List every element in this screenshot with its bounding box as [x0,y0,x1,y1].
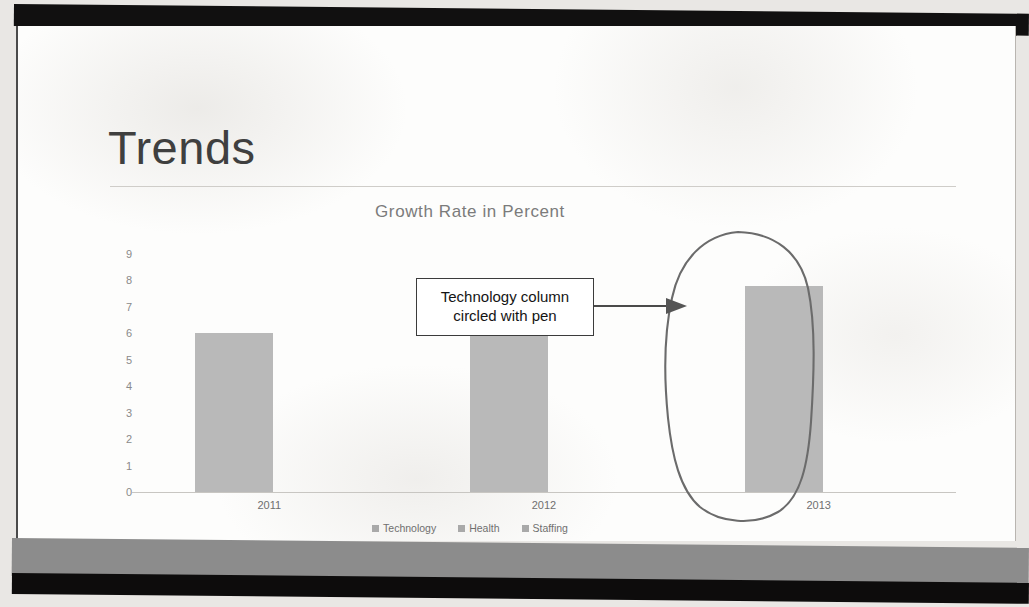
chart-title: Growth Rate in Percent [110,202,830,222]
page-title: Trends [108,124,256,171]
bar-chart: Growth Rate in Percent 9876543210 201120… [110,202,960,522]
y-tick-label: 8 [110,275,132,286]
arrow-right-icon [592,294,692,318]
title-divider [110,186,956,187]
annotation-callout-box: Technology column circled with pen [416,278,594,336]
bar-2011 [195,333,273,492]
callout-line-1: Technology column [441,288,569,307]
y-tick-label: 3 [110,408,132,419]
legend-swatch-icon [522,525,529,532]
legend-swatch-icon [372,525,379,532]
x-tick-label: 2013 [779,500,859,511]
y-tick-label: 0 [110,487,132,498]
x-axis-line [132,492,956,493]
legend-item-technology: Technology [372,522,436,534]
bar-2013 [745,286,823,492]
legend-label: Technology [383,522,436,534]
chart-legend: TechnologyHealthStaffing [110,522,830,534]
legend-label: Staffing [533,522,568,534]
y-tick-label: 4 [110,381,132,392]
legend-item-staffing: Staffing [522,522,568,534]
x-tick-label: 2012 [504,500,584,511]
callout-line-2: circled with pen [453,307,556,326]
plot-area: 9876543210 201120122013 TechnologyHealth… [110,230,960,470]
y-tick-label: 5 [110,355,132,366]
x-tick-label: 2011 [229,500,309,511]
y-tick-label: 2 [110,434,132,445]
y-tick-label: 7 [110,302,132,313]
presentation-slide: Trends Growth Rate in Percent 9876543210… [16,26,1016,541]
legend-swatch-icon [458,525,465,532]
y-tick-label: 6 [110,328,132,339]
legend-item-health: Health [458,522,499,534]
y-tick-label: 9 [110,249,132,260]
slide-photo-screenshot: Trends Growth Rate in Percent 9876543210… [0,0,1029,607]
y-tick-label: 1 [110,461,132,472]
legend-label: Health [469,522,499,534]
